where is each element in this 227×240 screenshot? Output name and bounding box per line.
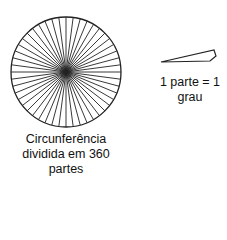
circle-caption-line-3: partes <box>0 162 132 177</box>
wedge-caption-line-1: 1 parte = 1 <box>150 75 227 90</box>
wedge-caption-line-2: grau <box>150 90 227 105</box>
circle-caption: Circunferência dividida em 360 partes <box>0 132 132 177</box>
circle-caption-line-1: Circunferência <box>0 132 132 147</box>
circle-caption-line-2: dividida em 360 <box>0 147 132 162</box>
one-degree-wedge <box>161 50 216 62</box>
wedge-caption: 1 parte = 1 grau <box>150 75 227 105</box>
